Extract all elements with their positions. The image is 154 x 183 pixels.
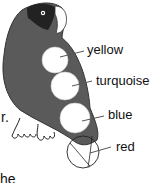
parrot-illustration xyxy=(0,0,154,183)
label-blue: blue xyxy=(108,108,133,121)
parrot-beak xyxy=(55,6,67,33)
text-fragment-left: r. xyxy=(1,110,9,124)
leader-red xyxy=(90,147,111,153)
label-red: red xyxy=(116,140,135,153)
parrot-diagram: yellow turquoise blue red r. he xyxy=(0,0,154,183)
circle-yellow xyxy=(42,47,68,73)
circle-blue xyxy=(60,103,90,133)
label-turquoise: turquoise xyxy=(96,74,149,87)
circle-turquoise xyxy=(51,72,79,100)
label-yellow: yellow xyxy=(87,43,123,56)
text-fragment-bottom: he xyxy=(0,172,16,183)
